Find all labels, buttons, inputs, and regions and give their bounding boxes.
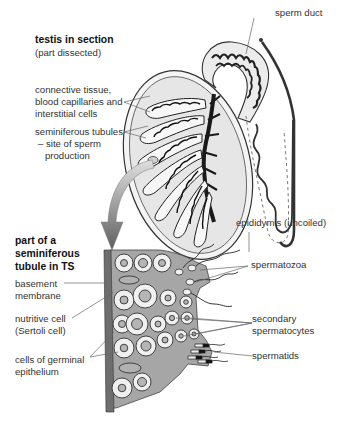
label-nutritive-line1: nutritive cell [15,313,66,325]
tubule-title-line3: tubule in TS [15,261,74,273]
label-spermatozoa: spermatozoa [251,259,306,271]
label-germinal-line1: cells of germinal [15,354,84,366]
label-germinal-line2: epithelium [15,366,59,378]
testis-subtitle: (part dissected) [35,47,101,59]
label-connective-line3: interstitial cells [35,108,97,120]
label-tubules-line3: production [45,150,90,162]
tubule-title-line2: seminiferous [15,248,80,260]
label-nutritive-line2: (Sertoli cell) [15,325,66,337]
label-tubules-line1: seminiferous tubules [35,126,123,138]
label-spermatids: spermatids [252,350,299,362]
label-epididymis: epididymis (uncoiled) [236,217,326,229]
label-tubules-line2: – site of sperm [38,138,101,150]
label-sperm-duct: sperm duct [275,7,322,19]
tubule-title-line1: part of a [15,235,56,247]
label-basement-line1: basement [15,278,57,290]
label-basement-line2: membrane [15,290,61,302]
label-connective-line1: connective tissue, [35,84,111,96]
label-connective-line2: blood capillaries and [35,96,122,108]
label-secondary-line2: spermatocytes [252,325,314,337]
testis-title: testis in section [35,34,114,46]
testis-illustration [105,38,294,273]
label-secondary-line1: secondary [252,313,296,325]
tubule-cross-section [104,244,240,412]
